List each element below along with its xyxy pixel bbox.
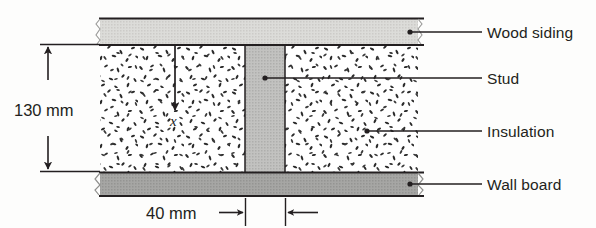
dimension-40mm <box>219 198 318 226</box>
dimension-label-130mm: 130 mm <box>14 101 74 120</box>
wall-board-layer <box>95 172 424 196</box>
figure-canvas: Wood siding Stud Insulation Wall board 1… <box>0 0 596 228</box>
callout-label-insulation: Insulation <box>487 123 554 141</box>
stud-layer <box>245 45 285 172</box>
callout-label-wall-board: Wall board <box>487 176 562 194</box>
callout-label-wood-siding: Wood siding <box>487 24 573 42</box>
wood-siding-layer <box>96 18 424 45</box>
dimension-label-40mm: 40 mm <box>146 204 196 223</box>
x-axis-label: x <box>170 113 177 130</box>
callout-label-stud: Stud <box>487 70 519 88</box>
